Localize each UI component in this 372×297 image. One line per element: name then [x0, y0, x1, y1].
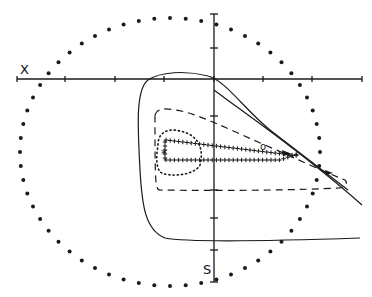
diagram-canvas: * o X S [0, 0, 372, 297]
star-marker: * [161, 147, 167, 161]
x-axis-label: X [20, 63, 29, 76]
origin-marker: o [260, 141, 266, 152]
x-axis [17, 76, 362, 82]
plus-marker-track [163, 138, 299, 162]
s-axis-label: S [203, 263, 211, 276]
outer-solid-contour [138, 73, 360, 241]
contour-plot: * o [0, 0, 372, 297]
dotted-boundary-circle [18, 16, 322, 288]
